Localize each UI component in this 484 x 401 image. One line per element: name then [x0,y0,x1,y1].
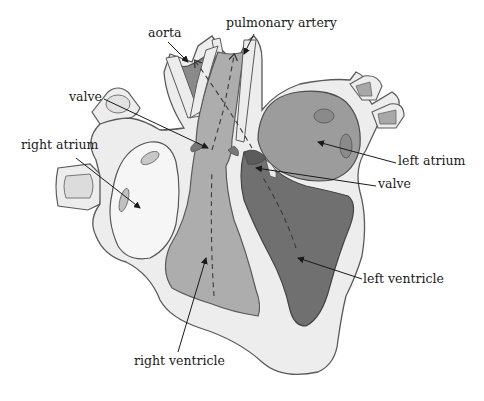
label-left-atrium: left atrium [398,155,465,168]
left-vein-stub [56,164,102,210]
label-valve-mitral: valve [378,178,411,191]
heart-diagram: aorta pulmonary artery valve right atriu… [0,0,484,401]
label-valve-pulmonary: valve [69,91,102,104]
label-right-ventricle: right ventricle [134,355,225,368]
label-right-atrium: right atrium [21,139,98,152]
label-aorta: aorta [148,27,181,40]
label-pulmonary-artery: pulmonary artery [226,17,337,30]
heart-illustration [0,0,484,401]
label-left-ventricle: left ventricle [363,273,444,286]
